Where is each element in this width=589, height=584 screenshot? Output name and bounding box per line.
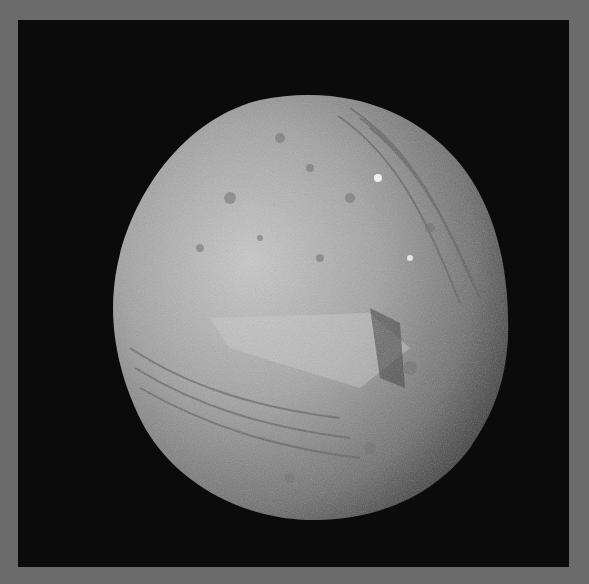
space-background	[18, 20, 569, 567]
moon-miranda	[110, 88, 510, 524]
